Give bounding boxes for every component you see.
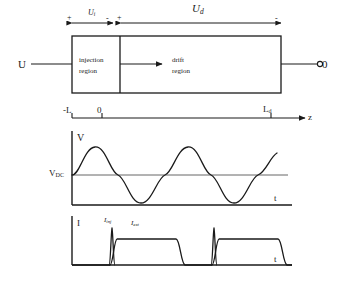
polarity-plus-injection-left: + bbox=[67, 14, 72, 22]
drift-voltage-subscript: d bbox=[200, 7, 204, 16]
injection-voltage-label: Ui bbox=[88, 9, 95, 18]
z-tick-label-Ld: Ld bbox=[263, 105, 272, 114]
injection-current-label: Iinj bbox=[104, 217, 111, 225]
injection-region-line1: injection bbox=[79, 56, 104, 64]
voltage-dc-subscript: DC bbox=[56, 172, 65, 178]
drift-voltage-symbol: U bbox=[192, 2, 200, 14]
current-axis-label: I bbox=[77, 219, 80, 228]
injection-region-label: injection region bbox=[79, 55, 117, 77]
current-injection-spikes bbox=[109, 228, 217, 265]
z-axis-label: z bbox=[308, 113, 312, 122]
z-tick-label-zero: 0 bbox=[97, 106, 102, 115]
voltage-axis-label: V bbox=[77, 133, 84, 143]
z-tick-label-neg-L: -L bbox=[63, 106, 72, 115]
injection-current-subscript: inj bbox=[106, 219, 111, 224]
voltage-panel-axes bbox=[72, 131, 292, 205]
current-external-pulses bbox=[72, 239, 292, 265]
voltage-time-axis-label: t bbox=[274, 194, 277, 203]
voltage-dc-level-label: VDC bbox=[49, 169, 64, 178]
current-time-axis-label: t bbox=[274, 255, 277, 264]
figure-vector-layer bbox=[0, 0, 337, 282]
terminal-label-left: U bbox=[18, 59, 26, 70]
external-current-subscript: ext bbox=[133, 222, 139, 227]
drift-region-line2: region bbox=[172, 67, 190, 75]
device-waveform-figure: U + - + - Ui Ud injection region drift r… bbox=[0, 0, 337, 282]
injection-voltage-subscript: i bbox=[94, 11, 96, 17]
external-current-label: Iext bbox=[131, 220, 139, 228]
terminal-label-right: 0 bbox=[322, 59, 328, 70]
z-tick-Ld-subscript: d bbox=[269, 108, 272, 114]
polarity-plus-drift-left: + bbox=[117, 14, 122, 22]
polarity-minus-injection-right: - bbox=[106, 15, 109, 23]
drift-voltage-label: Ud bbox=[192, 3, 204, 15]
drift-region-label: drift region bbox=[172, 55, 212, 77]
polarity-minus-drift-right: - bbox=[275, 15, 278, 23]
injection-region-line2: region bbox=[79, 67, 97, 75]
drift-region-line1: drift bbox=[172, 56, 184, 64]
